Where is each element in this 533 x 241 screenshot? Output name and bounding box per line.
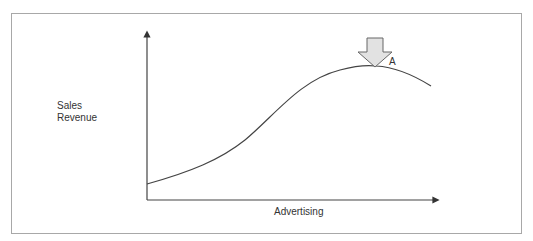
y-axis-label-line2: Revenue: [57, 112, 97, 124]
point-a-label: A: [389, 56, 396, 68]
y-axis-label: Sales Revenue: [57, 100, 97, 124]
down-arrow-icon: [358, 38, 392, 67]
x-axis-label: Advertising: [274, 206, 323, 218]
y-axis-label-line1: Sales: [57, 100, 97, 112]
sales-curve: [147, 66, 431, 184]
